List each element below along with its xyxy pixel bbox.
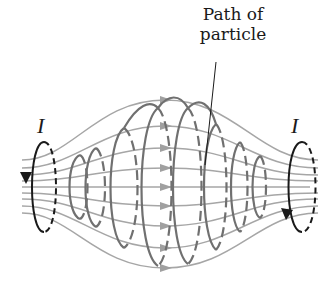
leader-line — [205, 62, 216, 165]
arrow-icon — [160, 264, 172, 272]
current-direction-arrow-icon — [20, 172, 32, 184]
current-label-left: I — [37, 115, 44, 137]
magnetic-field-lines — [22, 100, 318, 268]
magnetic-bottle-diagram — [0, 0, 328, 290]
path-label-line2: particle — [190, 24, 276, 44]
path-label-line1: Path of — [190, 4, 276, 24]
particle-helical-path — [70, 98, 267, 267]
arrow-icon — [160, 183, 172, 191]
current-label-right: I — [291, 115, 298, 137]
path-of-particle-label: Path of particle — [190, 4, 276, 44]
